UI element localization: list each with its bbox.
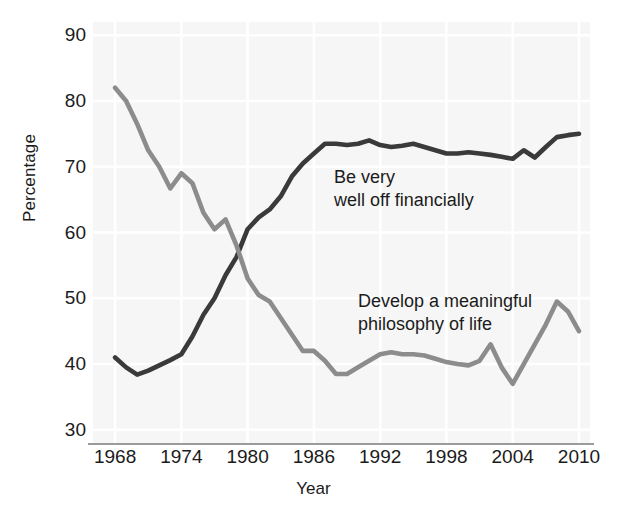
x-axis-tick-labels: 19681974198019861992199820042010	[0, 447, 627, 477]
x-axis-tick-label: 1980	[213, 447, 283, 468]
x-axis-tick-label: 1986	[279, 447, 349, 468]
series-lines	[115, 88, 579, 384]
plot-canvas	[93, 22, 590, 443]
y-axis-tick-label: 30	[46, 420, 86, 439]
x-axis-tick-label: 1992	[345, 447, 415, 468]
x-axis-tick-label: 1974	[146, 447, 216, 468]
series-line	[115, 88, 579, 384]
x-axis-tick-label: 1968	[80, 447, 150, 468]
y-axis-tick-label: 80	[46, 91, 86, 110]
series-annotation-develop-a-meaningful-philosophy-of-life: Develop a meaningful philosophy of life	[358, 290, 532, 336]
plot-area	[93, 22, 590, 443]
series-annotation-be-very-well-off-financially: Be very well off financially	[334, 166, 474, 212]
y-axis-tick-label: 70	[46, 157, 86, 176]
y-axis-tick-label: 60	[46, 223, 86, 242]
y-axis-title: Percentage	[20, 88, 40, 268]
x-axis-tick-label: 1998	[411, 447, 481, 468]
line-chart: Percentage 30405060708090 19681974198019…	[0, 0, 627, 518]
y-axis-tick-label: 90	[46, 25, 86, 44]
x-axis-tick-label: 2004	[478, 447, 548, 468]
y-axis-tick-label: 40	[46, 354, 86, 373]
y-axis-tick-labels: 30405060708090	[44, 0, 86, 518]
x-axis-title: Year	[0, 479, 627, 499]
x-axis-line	[88, 443, 594, 445]
y-axis-tick-label: 50	[46, 288, 86, 307]
x-axis-tick-label: 2010	[544, 447, 614, 468]
